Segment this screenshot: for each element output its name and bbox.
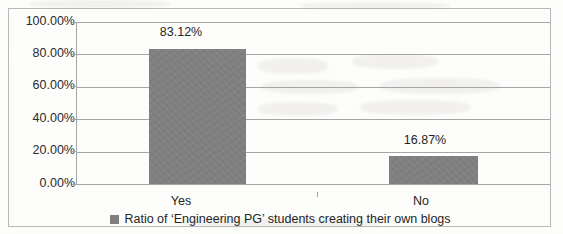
chart-legend: Ratio of ‘Engineering PG’ students creat… xyxy=(9,212,552,226)
legend-label: Ratio of ‘Engineering PG’ students creat… xyxy=(124,212,450,226)
gridline xyxy=(77,22,550,23)
chart-container: 100.00% 80.00% 60.00% 40.00% 20.00% 0.00… xyxy=(8,8,551,227)
category-label-no: No xyxy=(373,194,469,208)
data-label-yes: 83.12% xyxy=(117,25,245,39)
scan-bleed-artifact xyxy=(30,0,170,8)
y-axis-tick-label: 40.00% xyxy=(13,112,75,125)
category-axis-tick xyxy=(317,192,318,197)
y-axis-tick-label: 80.00% xyxy=(13,47,75,60)
y-axis-tick-label: 20.00% xyxy=(13,144,75,157)
bar-yes[interactable] xyxy=(149,49,246,184)
y-axis-tick-label: 0.00% xyxy=(13,177,75,190)
data-label-no: 16.87% xyxy=(361,133,489,147)
gridline xyxy=(77,119,550,120)
category-label-yes: Yes xyxy=(133,194,229,208)
bar-texture xyxy=(149,49,246,184)
legend-color-swatch-icon xyxy=(110,215,119,224)
gridline xyxy=(77,87,550,88)
bar-no[interactable] xyxy=(389,156,478,184)
y-axis-tick-label: 60.00% xyxy=(13,79,75,92)
y-axis-labels: 100.00% 80.00% 60.00% 40.00% 20.00% 0.00… xyxy=(9,9,75,228)
gridline xyxy=(77,54,550,55)
bar-texture xyxy=(389,156,478,184)
gridline xyxy=(77,184,550,185)
plot-area xyxy=(77,22,550,184)
scanned-page-background: 100.00% 80.00% 60.00% 40.00% 20.00% 0.00… xyxy=(0,0,563,234)
y-axis-tick-label: 100.00% xyxy=(13,15,75,28)
gridline xyxy=(77,152,550,153)
